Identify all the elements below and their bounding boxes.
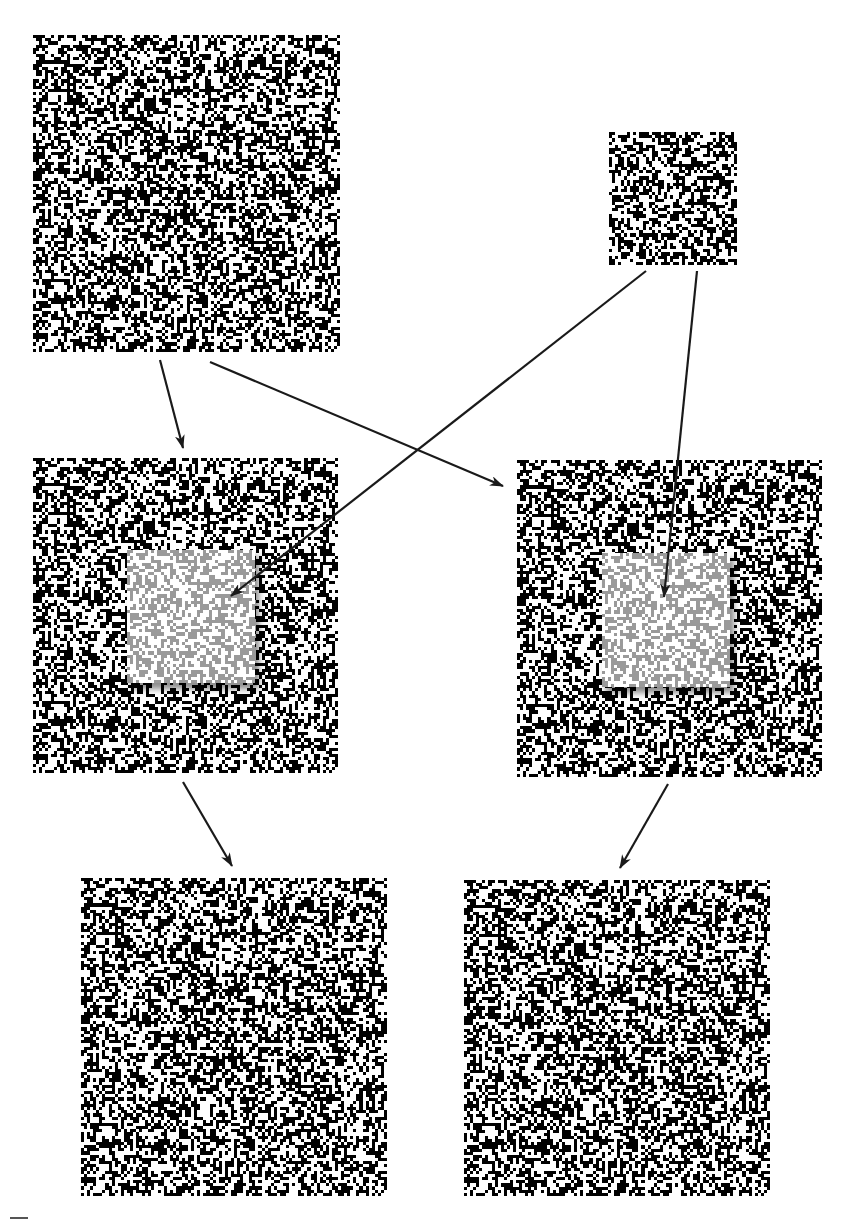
output-right-random-dot-panel: [464, 880, 770, 1196]
source-small-random-dot-panel: [609, 132, 737, 265]
arrow-large-to-combined-left: [160, 360, 183, 448]
combined-right-inset-square: [602, 553, 730, 687]
output-left-random-dot-panel: [81, 878, 387, 1196]
caption-fragment: [0, 1215, 30, 1221]
arrow-combined-left-to-output-left: [183, 782, 232, 866]
arrow-combined-right-to-output-right: [620, 784, 668, 868]
combined-left-inset-square: [127, 550, 255, 683]
source-large-random-dot-panel: [33, 35, 340, 352]
